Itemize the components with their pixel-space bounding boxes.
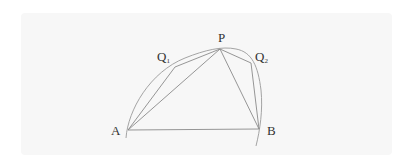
label-Q1: Q1 [157, 50, 170, 65]
segment-PQ2 [220, 49, 251, 63]
geometry-figure [0, 0, 411, 166]
segment-AP [128, 49, 220, 130]
label-A: A [111, 124, 120, 137]
label-Q2-text: Q [255, 49, 264, 64]
segment-AQ1 [128, 67, 175, 130]
label-B: B [267, 124, 276, 137]
segment-Q1P [175, 49, 220, 67]
label-Q2: Q2 [255, 50, 268, 65]
label-B-text: B [267, 123, 276, 138]
label-Q1-sub: 1 [166, 57, 170, 65]
label-P-text: P [218, 30, 225, 45]
label-A-text: A [111, 123, 120, 138]
label-Q2-sub: 2 [264, 57, 268, 65]
label-P: P [218, 31, 225, 44]
segment-AB [128, 129, 259, 130]
label-Q1-text: Q [157, 49, 166, 64]
circle-arc [126, 48, 262, 146]
